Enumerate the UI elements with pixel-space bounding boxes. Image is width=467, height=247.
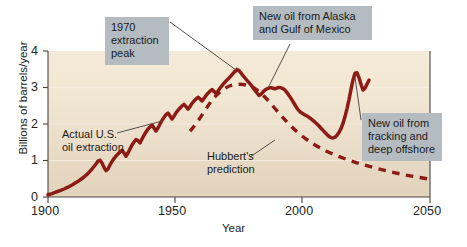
x-tick-label-1900: 1900 [31,204,59,218]
figure-container: 4 3 2 1 0 1900 1950 2000 2050 Billions o… [0,0,467,247]
x-tick-label-1950: 1950 [158,204,186,218]
annotation-new-oil-fracking: New oil from fracking and deep offshore [362,113,442,161]
annotation-1970-extraction-peak: 1970 extraction peak [105,17,169,65]
caption-strip [0,238,467,247]
annotation-actual-us-oil-extraction: Actual U.S. oil extraction [62,128,124,154]
y-ticks [43,51,48,197]
annotation-hubberts-prediction: Hubbert's prediction [207,150,255,176]
leader-line-alaska [268,44,290,88]
x-ticks [48,197,430,203]
y-tick-label-0: 0 [24,190,38,204]
x-tick-label-2050: 2050 [413,204,441,218]
x-tick-label-2000: 2000 [285,204,313,218]
x-axis-title: Year [0,222,467,234]
annotation-new-oil-alaska-gulf: New oil from Alaska and Gulf of Mexico [253,6,372,40]
y-axis-title: Billions of barrels/year [17,33,29,163]
leader-line-peak [170,22,236,70]
